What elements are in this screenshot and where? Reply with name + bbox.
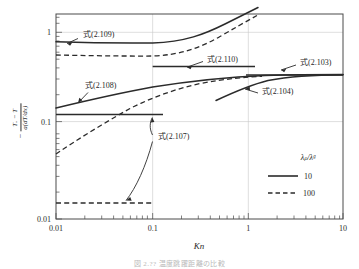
legend-label-100: 100 <box>303 189 315 198</box>
chart-svg: 0.01 0.1 1 10 0.01 0.1 1 Kn 式(2.109) 式(2… <box>0 0 359 269</box>
y-tick-label-2: 1 <box>47 28 51 37</box>
y-axis-fraction: Tₒ − T a(dT/dx) <box>12 104 29 132</box>
x-axis-title: Kn <box>193 241 205 251</box>
y-tick-label-0: 0.01 <box>37 215 51 224</box>
x-tick-label-3: 10 <box>339 224 347 233</box>
y-axis-minus-sign: − <box>17 134 26 139</box>
annotation-eq-2-104: 式(2.104) <box>262 86 294 96</box>
plot-background <box>56 14 343 219</box>
y-axis-denominator: a(dT/dx) <box>22 104 30 132</box>
legend-title: λₚ/λᵍ <box>300 153 316 162</box>
annotation-eq-2-103: 式(2.103) <box>300 57 332 67</box>
legend-label-10: 10 <box>304 172 312 181</box>
y-axis-numerator: Tₒ − T <box>12 107 20 129</box>
y-axis-title: − Tₒ − T a(dT/dx) <box>4 84 38 158</box>
annotation-eq-2-108: 式(2.108) <box>85 80 117 90</box>
annotation-eq-2-109: 式(2.109) <box>83 29 115 39</box>
annotation-eq-2-107: 式(2.107) <box>158 131 190 141</box>
x-tick-label-2: 1 <box>246 224 250 233</box>
figure-caption: 図 2.?? 温度跳躍距離の比較 <box>0 258 359 268</box>
y-tick-label-1: 0.1 <box>41 118 51 127</box>
x-tick-label-1: 0.1 <box>148 224 158 233</box>
x-tick-label-0: 0.01 <box>49 224 63 233</box>
annotation-eq-2-110: 式(2.110) <box>207 54 238 64</box>
figure-container: 0.01 0.1 1 10 0.01 0.1 1 Kn 式(2.109) 式(2… <box>0 0 359 269</box>
